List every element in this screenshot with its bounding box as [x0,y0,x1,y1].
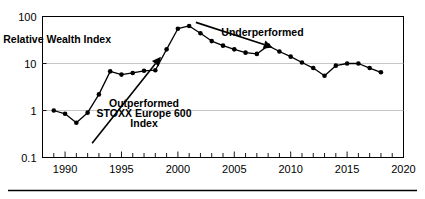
data-point-1999 [164,47,169,52]
data-point-1993 [97,92,102,97]
x-tick-label-1995: 1995 [109,163,133,175]
data-point-2016 [356,61,361,66]
x-tick-label-1990: 1990 [53,163,77,175]
data-point-2007 [255,52,260,57]
data-point-2009 [277,49,282,54]
x-axis-tick-labels-group: 1990199520002005201020152020 [53,163,416,175]
data-point-1989 [51,108,56,113]
data-point-2010 [288,54,293,59]
y-tick-label-0.1: 0.1 [21,152,36,164]
y-tick-label-10: 10 [24,58,36,70]
data-point-2005 [232,47,237,52]
data-point-2002 [198,31,203,36]
data-point-1996 [130,71,135,76]
x-tick-label-2010: 2010 [278,163,302,175]
annotation-labels-group: Relative Wealth IndexOutperformedSTOXX E… [3,26,303,129]
data-point-1990 [63,112,68,117]
data-point-1992 [85,110,90,115]
relative-wealth-index-chart: 1001010.1 1990199520002005201020152020 R… [0,0,425,199]
data-point-1998 [153,68,158,73]
data-point-2012 [311,66,316,71]
x-tick-label-2005: 2005 [222,163,246,175]
data-point-2014 [334,63,339,68]
relative-wealth-index-label: Relative Wealth Index [3,33,111,45]
y-tick-label-1: 1 [30,105,36,117]
x-tick-label-2000: 2000 [166,163,190,175]
data-point-2004 [221,43,226,48]
data-point-1991 [74,120,79,125]
data-point-2003 [209,39,214,44]
gridlines-group [43,64,404,111]
annotation-arrows-group [92,22,273,143]
x-tick-label-2015: 2015 [335,163,359,175]
outperformed-label-line3: Index [130,117,158,129]
data-point-1994 [108,69,113,74]
data-point-2001 [187,24,192,29]
data-point-2000 [176,26,181,31]
data-point-2017 [367,66,372,71]
data-point-2013 [322,73,327,78]
data-point-1995 [119,72,124,77]
x-axis-ticks-group [43,152,404,158]
data-point-2006 [243,50,248,55]
data-point-2015 [345,61,350,66]
y-tick-label-100: 100 [18,11,36,23]
data-point-2018 [379,70,384,75]
data-point-2011 [300,60,305,65]
outperformed-arrow-head [152,57,161,67]
underperformed-label: Underperformed [221,26,303,38]
data-point-1997 [142,68,147,73]
x-tick-label-2020: 2020 [391,163,415,175]
chart-canvas: 1001010.1 1990199520002005201020152020 R… [0,0,425,199]
underperformed-arrow-head [263,40,273,48]
